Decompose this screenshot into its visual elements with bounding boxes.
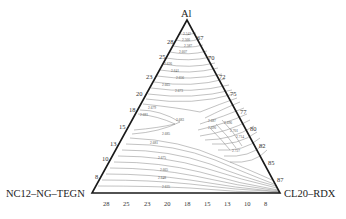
contour-label: 2.673 (175, 89, 183, 93)
right-tick: 80 (250, 125, 257, 132)
left-tick: 18 (129, 106, 136, 113)
right-tick: 67 (197, 34, 204, 41)
contour-label: 2.607 (179, 50, 187, 54)
left-tick: 13 (110, 140, 117, 147)
right-tick: 72 (219, 73, 226, 80)
contour-label: 2.665 (160, 168, 168, 172)
right-axis-ticks: 67 70 72 75 77 80 82 85 87 (197, 34, 284, 183)
contour-label: 2.675 (158, 156, 166, 160)
bottom-tick: 15 (204, 200, 211, 207)
left-tick: 25 (159, 53, 166, 60)
contour-label: 2.690 (208, 126, 216, 130)
contour-label: 2.587 (184, 44, 192, 48)
vertex-label-bottom-right: CL20–RDX (284, 188, 336, 199)
left-tick: 20 (136, 90, 143, 97)
vertex-label-bottom-left: NC12–NG–TEGN (6, 188, 85, 199)
right-tick: 70 (208, 54, 215, 61)
contour-label: 2.681 (150, 141, 158, 145)
contour-label: 2.635 (162, 185, 170, 189)
bottom-axis-ticks: 28 25 23 20 18 15 13 10 8 (103, 200, 267, 207)
bottom-tick: 23 (144, 200, 151, 207)
contour-label: 2.648 (158, 176, 166, 180)
contour-label: 2.714 (236, 135, 244, 139)
contour-label: 2.665 (162, 83, 170, 87)
bottom-tick: 10 (244, 200, 251, 207)
right-tick: 75 (230, 90, 237, 97)
contour-label: 2.683 (176, 118, 184, 122)
left-tick: 23 (146, 73, 153, 80)
left-tick: 28 (167, 38, 174, 45)
contour-label: 2.685 (162, 132, 170, 136)
bottom-tick: 20 (164, 200, 171, 207)
bottom-tick: 28 (103, 200, 110, 207)
contour-label: 2.641 (171, 69, 179, 73)
left-tick: 15 (119, 123, 126, 130)
contour-label: 2.626 (164, 62, 172, 66)
contour-label: 2.696 (224, 121, 232, 125)
bottom-tick: 13 (224, 200, 231, 207)
contour-lines (98, 33, 280, 193)
contour-label: 2.656 (176, 76, 184, 80)
bottom-tick: 8 (264, 200, 267, 207)
right-tick: 87 (277, 176, 284, 183)
bottom-tick: 25 (123, 200, 130, 207)
contour-label: 2.701 (230, 129, 238, 133)
contour-label: 2.542 (183, 32, 191, 36)
contour-label: 2.727 (232, 149, 240, 153)
ternary-diagram: 2.542 2.566 2.587 2.607 2.626 2.641 2.65… (0, 0, 346, 219)
bottom-tick: 18 (184, 200, 191, 207)
vertex-label-top: Al (181, 8, 192, 19)
contour-label: 2.687 (208, 119, 216, 123)
contour-label: 2.679 (148, 106, 156, 110)
left-tick: 8 (95, 173, 98, 180)
right-tick: 85 (268, 159, 275, 166)
right-tick: 82 (259, 142, 266, 149)
left-tick: 10 (102, 155, 109, 162)
contour-label: 2.566 (182, 38, 190, 42)
contour-label: 2.681 (140, 113, 148, 117)
right-tick: 77 (240, 108, 247, 115)
